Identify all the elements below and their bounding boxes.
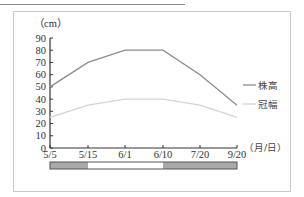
x-tick-label: 7/20 bbox=[191, 149, 210, 160]
legend-label: 冠幅 bbox=[258, 99, 278, 110]
y-tick-label: 90 bbox=[36, 33, 47, 44]
x-axis: 5/55/156/16/107/209/20 bbox=[43, 145, 246, 160]
period-segment bbox=[50, 162, 88, 169]
y-axis-unit: （cm） bbox=[34, 18, 67, 29]
series-line bbox=[50, 99, 237, 117]
y-tick-label: 50 bbox=[36, 81, 47, 92]
period-segment bbox=[163, 162, 237, 169]
period-bar bbox=[50, 162, 237, 169]
y-axis: 0102030405060708090 bbox=[36, 33, 54, 154]
legend: 株高冠幅 bbox=[243, 80, 278, 110]
y-tick-label: 70 bbox=[36, 57, 47, 68]
line-chart: 0102030405060708090 5/55/156/16/107/209/… bbox=[0, 0, 304, 197]
period-segment bbox=[88, 162, 163, 169]
x-axis-unit: （月/日） bbox=[244, 142, 287, 153]
legend-label: 株高 bbox=[258, 80, 278, 91]
y-tick-label: 20 bbox=[36, 118, 47, 129]
y-tick-label: 40 bbox=[36, 94, 47, 105]
x-tick-label: 6/1 bbox=[118, 149, 131, 160]
x-tick-label: 5/5 bbox=[43, 149, 56, 160]
series-line bbox=[50, 50, 237, 105]
y-tick-label: 60 bbox=[36, 69, 47, 80]
y-tick-label: 10 bbox=[36, 130, 47, 141]
x-tick-label: 6/10 bbox=[154, 149, 173, 160]
series-lines bbox=[50, 50, 237, 117]
y-tick-label: 30 bbox=[36, 106, 47, 117]
y-tick-label: 80 bbox=[36, 45, 47, 56]
x-tick-label: 5/15 bbox=[79, 149, 98, 160]
